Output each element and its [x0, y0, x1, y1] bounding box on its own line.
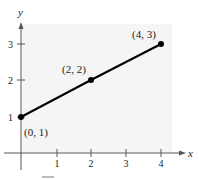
chart-svg: x y 1 2 3 4 1 2 3 (0, 1) (2, 2) (4, 3)	[0, 0, 199, 180]
y-tick-label-3: 3	[8, 39, 13, 50]
x-tick-label-3: 3	[124, 158, 129, 169]
y-axis-label: y	[17, 6, 23, 18]
data-point-2-2	[88, 77, 94, 83]
x-tick-label-1: 1	[55, 158, 60, 169]
data-point-4-3	[158, 41, 164, 47]
y-tick-label-1: 1	[8, 112, 13, 123]
point-label-4-3: (4, 3)	[132, 28, 156, 41]
x-axis-arrow-icon	[179, 151, 186, 156]
chart-figure: x y 1 2 3 4 1 2 3 (0, 1) (2, 2) (4, 3)	[0, 0, 199, 180]
data-point-0-1	[18, 114, 24, 120]
y-tick-label-2: 2	[8, 75, 13, 86]
x-axis-label: x	[187, 147, 193, 159]
x-tick-label-2: 2	[89, 158, 94, 169]
point-label-2-2: (2, 2)	[62, 63, 86, 76]
x-tick-label-4: 4	[159, 158, 164, 169]
cropped-caption-fragment	[42, 176, 54, 178]
point-label-0-1: (0, 1)	[24, 126, 48, 139]
